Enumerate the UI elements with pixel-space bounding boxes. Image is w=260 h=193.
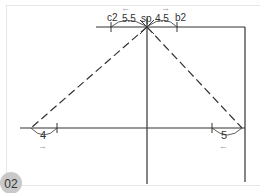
label-bottom-right-length: 5: [221, 129, 227, 141]
label-bottom-left-length: 4: [40, 129, 46, 141]
pattern-drafting-diagram: c2 5.5 sp 4.5 b2 4 5 ← → → ←: [0, 0, 260, 193]
arrow-right-icon: →: [38, 141, 47, 151]
arrow-left-icon: ←: [121, 3, 130, 13]
label-sp: sp: [141, 13, 152, 24]
right-dashed-line: [147, 27, 242, 128]
arrow-right-icon: →: [161, 3, 170, 13]
label-b2: b2: [175, 12, 187, 23]
left-dashed-line: [31, 27, 147, 128]
label-top-right-length: 4.5: [155, 13, 169, 24]
label-top-left-length: 5.5: [122, 13, 136, 24]
figure-number-badge: 02: [0, 172, 22, 193]
label-c2: c2: [107, 12, 118, 23]
arrow-left-icon: ←: [219, 141, 228, 151]
